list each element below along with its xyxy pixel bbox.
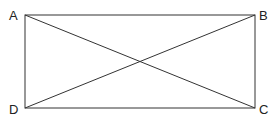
vertex-label-a: A (9, 9, 18, 22)
vertex-label-d: D (9, 103, 18, 116)
rectangle-diagram (0, 0, 278, 124)
vertex-label-c: C (259, 103, 268, 116)
vertex-label-b: B (259, 9, 268, 22)
